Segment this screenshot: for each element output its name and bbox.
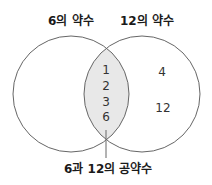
intersection-fill (84, 36, 200, 152)
intersection-value: 6 (96, 110, 116, 124)
intersection-value: 1 (96, 63, 116, 77)
intersection-value: 3 (96, 95, 116, 109)
intersection-value: 2 (96, 79, 116, 93)
right-only-value: 12 (153, 101, 173, 115)
callout-common-divisors: 6과 12의 공약수 (64, 159, 152, 176)
label-divisors-of-12: 12의 약수 (120, 11, 174, 28)
right-only-value: 4 (152, 65, 172, 79)
label-divisors-of-6: 6의 약수 (48, 11, 94, 28)
